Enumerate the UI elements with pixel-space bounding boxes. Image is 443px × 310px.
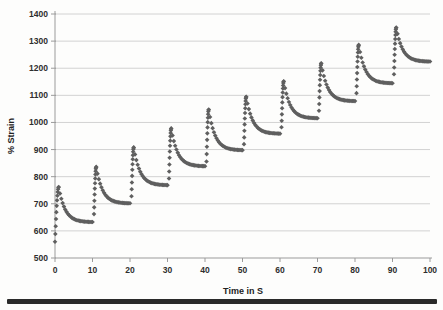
data-point: [130, 162, 135, 167]
data-point: [135, 162, 140, 167]
data-point: [285, 96, 290, 101]
y-tick-label: 800: [34, 172, 48, 182]
data-point: [392, 59, 397, 64]
data-point: [317, 108, 322, 113]
data-point: [129, 194, 134, 199]
y-tick-label: 1400: [29, 9, 48, 19]
data-point: [279, 125, 284, 130]
data-point: [53, 239, 58, 244]
data-point: [205, 131, 210, 136]
document-page: 5006007008009001000110012001300140001020…: [0, 0, 443, 310]
data-point: [205, 145, 210, 150]
bottom-border-rule: [7, 299, 437, 304]
x-tick-label: 90: [388, 265, 398, 275]
y-tick-label: 1300: [29, 36, 48, 46]
plot-area: 5006007008009001000110012001300140001020…: [0, 0, 443, 310]
data-point: [134, 158, 139, 163]
x-tick-label: 40: [200, 265, 210, 275]
data-point: [317, 102, 322, 107]
data-point: [393, 47, 398, 52]
data-point: [397, 37, 402, 42]
data-point: [59, 196, 64, 201]
x-tick-label: 80: [350, 265, 360, 275]
data-point: [243, 106, 248, 111]
x-tick-label: 60: [275, 265, 285, 275]
data-point: [130, 157, 135, 162]
y-tick-label: 600: [34, 226, 48, 236]
x-tick-label: 0: [53, 265, 58, 275]
data-point: [92, 212, 97, 217]
data-point: [129, 187, 134, 192]
data-point: [205, 138, 210, 143]
data-point: [392, 72, 397, 77]
data-point: [317, 89, 322, 94]
data-point: [205, 125, 210, 130]
data-point: [209, 121, 214, 126]
data-point: [360, 60, 365, 65]
x-tick-label: 100: [423, 265, 437, 275]
data-point: [318, 83, 323, 88]
x-tick-label: 70: [313, 265, 323, 275]
y-tick-label: 700: [34, 199, 48, 209]
data-point: [92, 192, 97, 197]
data-point: [130, 174, 135, 179]
data-point: [318, 73, 323, 78]
data-point: [393, 41, 398, 46]
data-point: [354, 84, 359, 89]
data-point: [280, 100, 285, 105]
data-point: [204, 159, 209, 164]
data-point: [280, 112, 285, 117]
data-point: [359, 55, 364, 60]
data-point: [167, 162, 172, 167]
data-point: [168, 138, 173, 143]
data-point: [248, 111, 253, 116]
data-point: [392, 53, 397, 58]
data-point: [93, 181, 98, 186]
data-point: [242, 128, 247, 133]
data-point: [392, 65, 397, 70]
y-tick-label: 1100: [30, 90, 49, 100]
x-axis-title: Time in S: [223, 286, 263, 296]
x-tick-label: 50: [238, 265, 248, 275]
data-point: [242, 142, 247, 147]
data-point: [173, 143, 178, 148]
data-point: [318, 77, 323, 82]
data-point: [130, 180, 135, 185]
data-point: [53, 224, 58, 229]
data-point: [205, 120, 210, 125]
data-point: [355, 77, 360, 82]
y-tick-label: 1000: [29, 117, 48, 127]
data-point: [54, 217, 59, 222]
data-point: [243, 111, 248, 116]
data-point: [322, 74, 327, 79]
x-tick-label: 10: [88, 265, 98, 275]
data-point: [53, 232, 58, 237]
data-point: [167, 155, 172, 160]
data-point: [243, 116, 248, 121]
data-point: [167, 169, 172, 174]
data-point: [92, 198, 97, 203]
data-point: [204, 152, 209, 157]
data-point: [168, 143, 173, 148]
data-point: [355, 54, 360, 59]
data-point: [280, 106, 285, 111]
y-tick-label: 900: [34, 145, 48, 155]
data-point: [242, 135, 247, 140]
y-tick-label: 1200: [29, 63, 48, 73]
data-point: [97, 177, 102, 182]
data-point: [93, 186, 98, 191]
data-point: [355, 59, 360, 64]
data-point: [172, 139, 177, 144]
data-point: [210, 126, 215, 131]
y-tick-label: 500: [34, 253, 48, 263]
data-point: [98, 181, 103, 186]
data-point: [355, 71, 360, 76]
data-point: [354, 91, 359, 96]
data-point: [280, 90, 285, 95]
x-tick-label: 20: [125, 265, 135, 275]
data-point: [247, 107, 252, 112]
data-point: [323, 78, 328, 83]
y-axis-title: % Strain: [6, 118, 16, 154]
data-point: [130, 168, 135, 173]
data-point: [92, 205, 97, 210]
